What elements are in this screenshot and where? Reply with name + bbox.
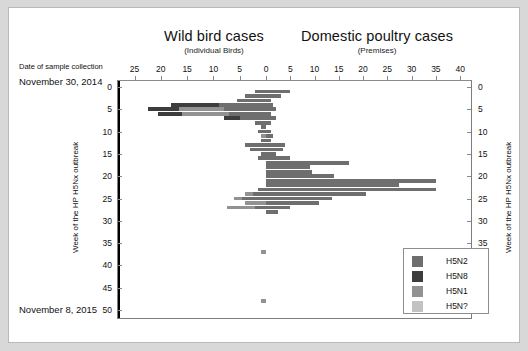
legend-item[interactable]: H5N1 [412,285,484,298]
bar-segment [253,192,266,196]
x-tick-label-right: 40 [455,64,464,74]
x-tick-label-right: 15 [334,64,343,74]
y-tick-label-left: 0 [96,82,112,92]
legend-swatch [412,301,423,312]
bar-segment [224,107,266,111]
bar-segment [245,192,253,196]
x-tick-left [266,76,267,80]
y-tick-right [467,199,471,200]
y-tick-label-right: 5 [478,104,483,114]
bar-segment [266,94,281,98]
y-tick-label-right: 20 [478,171,487,181]
y-tick-label-left: 10 [96,127,112,137]
legend-item[interactable]: H5N8 [412,270,484,283]
bar-segment [237,99,266,103]
bar-segment [266,192,366,196]
bar-segment [242,197,266,201]
bar-segment [266,107,276,111]
legend: H5N2H5N8H5N1H5N? [403,248,489,314]
x-tick-right [315,76,316,80]
bar-segment [266,161,349,165]
bar-segment [266,197,332,201]
x-tick-left [135,76,136,80]
y-tick-left [118,221,122,222]
bar-segment [266,165,310,169]
x-tick-label-right: 20 [358,64,367,74]
bar-segment [255,206,266,210]
bar-segment [182,112,229,116]
bar-segment [266,134,273,138]
bar-segment [219,103,266,107]
y-tick-label-left: 25 [96,194,112,204]
bar-segment [266,156,290,160]
y-axis-title: Week of the HP H5Nx outbreak [71,142,80,253]
y-tick-label-left: 5 [96,104,112,114]
legend-item[interactable]: H5N2 [412,255,484,268]
y-tick-right [467,87,471,88]
legend-label: H5N1 [446,286,468,297]
x-axis-line [118,80,471,81]
y-tick-label-left: 15 [96,149,112,159]
legend-item[interactable]: H5N? [412,300,484,313]
y-tick-right [467,109,471,110]
date-axis-caption: Date of sample collection [19,62,103,71]
y-tick-label-left: 30 [96,216,112,226]
x-tick-right [339,76,340,80]
x-tick-label-left: 20 [156,64,165,74]
bar-segment [258,156,266,160]
bar-segment [261,125,266,129]
legend-swatch [412,271,423,282]
bar-segment [266,112,271,116]
bar-segment [171,103,218,107]
right-panel-subtitle: (Premises) [267,46,487,55]
right-panel-title: Domestic poultry cases [267,28,487,44]
bar-segment [245,201,266,205]
x-tick-label-right: 5 [288,64,293,74]
y-tick-left [118,132,122,133]
x-tick-label-right: 25 [383,64,392,74]
x-tick-right [363,76,364,80]
y-tick-left [118,176,122,177]
x-tick-label-left: 0 [264,64,269,74]
x-tick-right [436,76,437,80]
bar-segment [224,116,240,120]
bar-segment [179,107,224,111]
y-tick-label-left: 40 [96,260,112,270]
y-tick-left [118,243,122,244]
x-tick-left [161,76,162,80]
legend-label: H5N8 [446,271,468,282]
bar-segment [266,130,271,134]
x-tick-left [240,76,241,80]
y-tick-label-right: 25 [478,194,487,204]
y-tick-left [118,265,122,266]
x-tick-right [460,76,461,80]
x-tick-left [213,76,214,80]
y-tick-right [467,154,471,155]
x-tick-label-left: 10 [209,64,218,74]
x-tick-left [187,76,188,80]
figure-container: Wild bird cases (Individual Birds) Domes… [8,7,520,343]
date-end-label: November 8, 2015 [19,304,97,315]
bar-segment [266,148,283,152]
bar-segment [245,143,266,147]
x-tick-label-left: 5 [237,64,242,74]
bar-segment [258,188,266,192]
bar-segment [261,299,266,303]
zero-axis-line [118,81,120,318]
x-tick-right [387,76,388,80]
bar-segment [245,94,266,98]
y-tick-left [118,87,122,88]
bar-segment [266,179,436,183]
bar-segment [261,250,266,254]
y-tick-right [467,221,471,222]
bar-segment [266,103,273,107]
bar-segment [266,188,436,192]
legend-label: H5N2 [446,256,468,267]
bar-segment [266,116,276,120]
bar-segment [266,143,285,147]
bar-segment [148,107,180,111]
y-tick-label-right: 30 [478,216,487,226]
bar-segment [266,170,312,174]
bar-segment [258,130,266,134]
bar-segment [266,152,276,156]
